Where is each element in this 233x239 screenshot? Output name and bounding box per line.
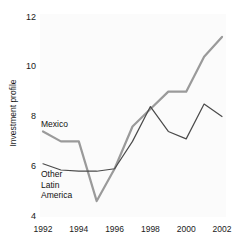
series-label-mexico: Mexico bbox=[41, 119, 68, 130]
series-lines-layer bbox=[0, 0, 233, 239]
series-label-other-latin-america: Other Latin America bbox=[41, 169, 72, 201]
series-line-other-latin-america bbox=[43, 104, 222, 171]
investment-profile-line-chart: Investment profile 1210864 1992199419961… bbox=[0, 0, 233, 239]
